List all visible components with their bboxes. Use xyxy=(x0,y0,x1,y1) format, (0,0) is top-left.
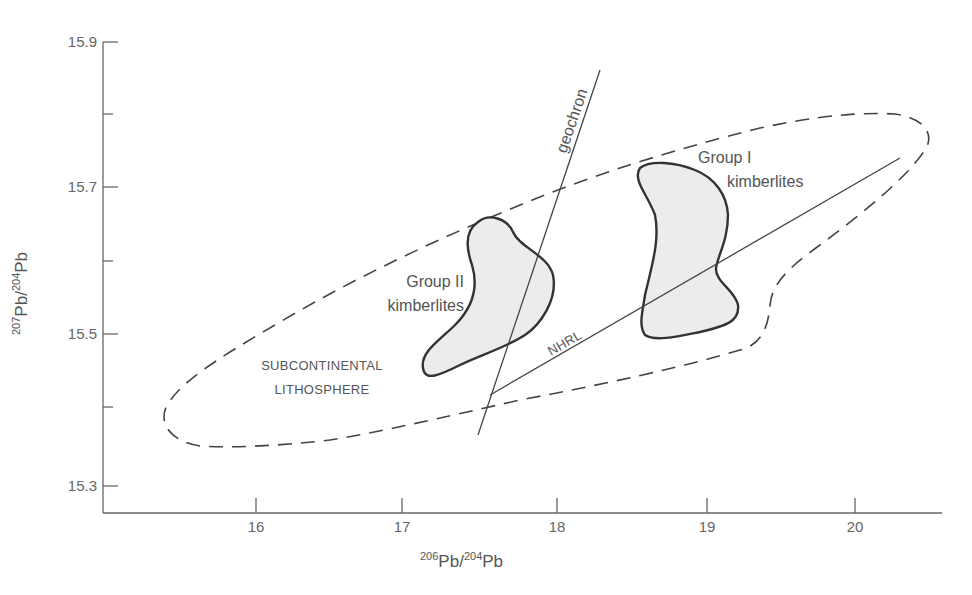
y-tick-label: 15.3 xyxy=(68,477,97,494)
y-axis-title: 207Pb/204Pb xyxy=(10,252,32,335)
subcontinental-label-line1: SUBCONTINENTAL xyxy=(261,358,383,373)
x-title-sup1: 206 xyxy=(420,550,438,562)
group-i-kimberlites-field xyxy=(638,163,738,338)
chart-plot-area: 15.9 15.7 15.5 15.3 16 17 18 19 20 geoch… xyxy=(0,0,972,595)
group-i-label-line2: kimberlites xyxy=(727,173,803,190)
group-ii-label-line2: kimberlites xyxy=(388,297,464,314)
group-ii-label-line1: Group II xyxy=(406,273,464,290)
x-tick-label: 18 xyxy=(549,518,566,535)
x-title-base2: Pb xyxy=(482,552,503,571)
geochron-label: geochron xyxy=(553,86,591,155)
y-tick-label: 15.7 xyxy=(68,178,97,195)
x-title-base1: Pb/ xyxy=(438,552,464,571)
nhrl-label: NHRL xyxy=(545,327,584,358)
y-title-sup2: 204 xyxy=(10,273,22,291)
x-tick-label: 16 xyxy=(248,518,265,535)
y-title-sup1: 207 xyxy=(10,317,22,335)
y-tick-label: 15.5 xyxy=(68,325,97,342)
y-title-base2: Pb xyxy=(12,252,31,273)
x-tick-label: 20 xyxy=(847,518,864,535)
x-tick-label: 17 xyxy=(394,518,411,535)
group-i-label-line1: Group I xyxy=(698,149,751,166)
y-title-base1: Pb/ xyxy=(12,291,31,317)
x-tick-label: 19 xyxy=(699,518,716,535)
x-title-sup2: 204 xyxy=(464,550,482,562)
y-tick-label: 15.9 xyxy=(68,33,97,50)
subcontinental-label-line2: LITHOSPHERE xyxy=(274,382,369,397)
x-axis-title: 206Pb/204Pb xyxy=(420,550,503,572)
